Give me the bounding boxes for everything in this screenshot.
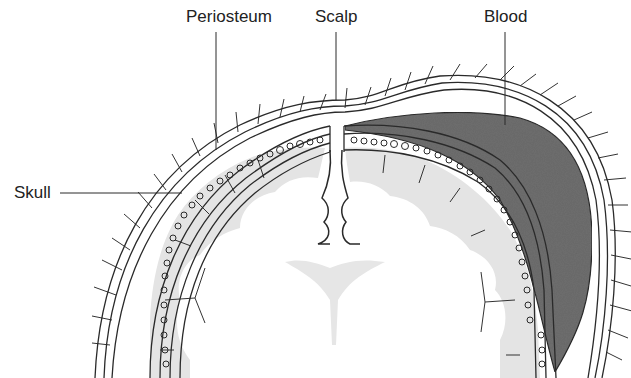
label-skull: Skull — [14, 184, 51, 201]
label-periosteum: Periosteum — [186, 8, 272, 25]
label-blood: Blood — [484, 8, 527, 25]
label-scalp: Scalp — [315, 8, 358, 25]
head-cross-section-drawing — [0, 0, 631, 378]
ventricles — [285, 260, 385, 345]
